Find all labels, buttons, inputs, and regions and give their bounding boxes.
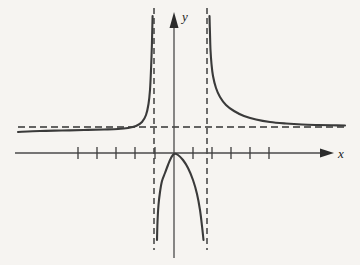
curve-left-branch (18, 16, 153, 132)
y-axis-label: y (180, 9, 188, 24)
curve-right-branch (210, 16, 346, 126)
x-axis-arrowhead (320, 149, 334, 158)
y-axis-arrowhead (170, 12, 179, 28)
function-plot: x y (0, 0, 360, 265)
graph-figure: x y (0, 0, 360, 265)
curve-middle-branch (157, 154, 204, 240)
x-axis-label: x (337, 146, 344, 161)
